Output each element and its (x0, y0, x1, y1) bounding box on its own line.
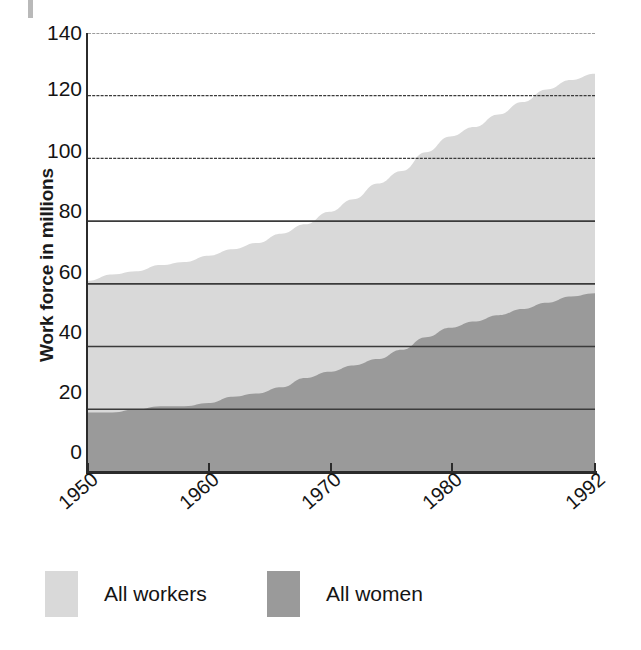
legend-swatch-all-women (267, 571, 300, 617)
plot-area (88, 33, 595, 472)
y-tick-label-60: 60 (36, 261, 82, 282)
legend-entry-all-women: All women (267, 568, 423, 620)
legend-label-all-workers: All workers (104, 582, 207, 606)
y-tick-label-140: 140 (36, 22, 82, 43)
y-tick-label-120: 120 (36, 78, 82, 99)
y-axis-line (86, 33, 88, 474)
y-tick-label-20: 20 (36, 381, 82, 402)
y-tick-label-100: 100 (36, 140, 82, 161)
x-tick-label-1960: 1960 (175, 468, 224, 515)
x-tick-label-1970: 1970 (297, 468, 346, 515)
y-tick-label-0: 0 (36, 441, 82, 462)
legend-swatch-all-workers (45, 571, 78, 617)
x-tick-label-1992: 1992 (561, 468, 610, 515)
legend-label-all-women: All women (326, 582, 423, 606)
chart-canvas (88, 33, 595, 472)
x-tick-label-1980: 1980 (418, 468, 467, 515)
y-tick-label-40: 40 (36, 321, 82, 342)
y-tick-label-80: 80 (36, 200, 82, 221)
area-chart-figure: Work force in millions 140 120 100 80 60… (0, 0, 641, 650)
x-axis-line (86, 471, 597, 474)
chart-legend: All workers All women (45, 568, 475, 620)
y-axis-tick-labels: 140 120 100 80 60 40 20 0 (36, 0, 82, 650)
legend-entry-all-workers: All workers (45, 568, 207, 620)
